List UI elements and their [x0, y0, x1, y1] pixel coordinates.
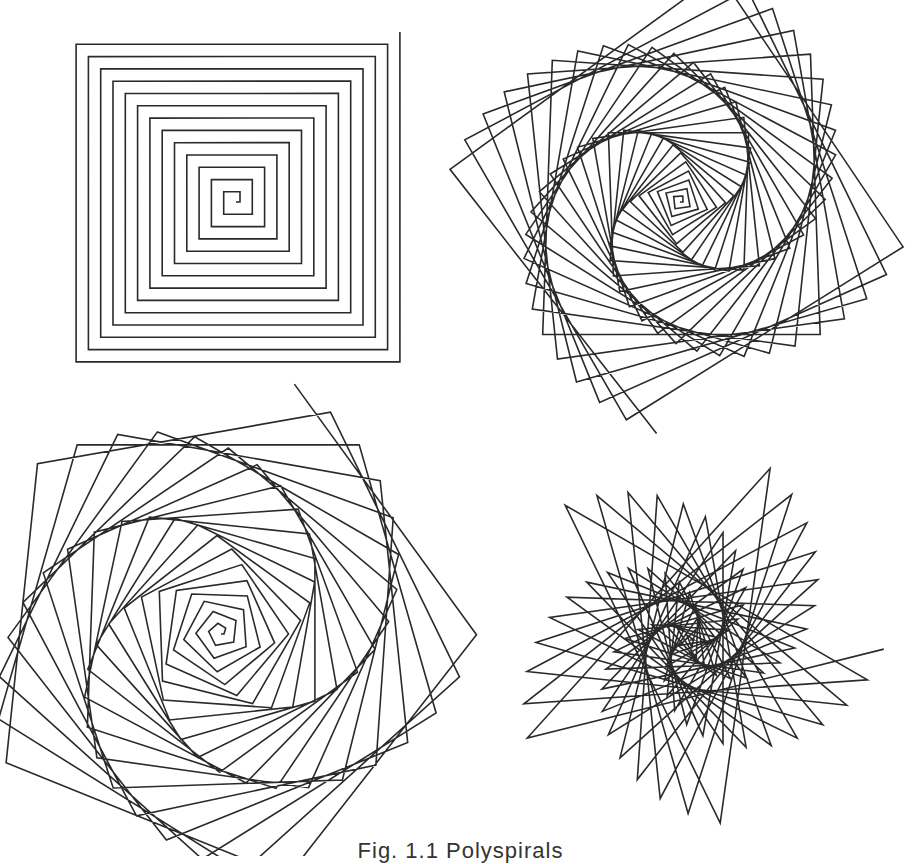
- star-spiral-drawing: [524, 468, 884, 823]
- pentagon-spiral-drawing: [0, 384, 476, 856]
- square-spiral-drawing: [76, 32, 400, 362]
- figure-caption: Fig. 1.1 Polyspirals: [0, 838, 921, 864]
- twisted-square-spiral-drawing: [450, 0, 903, 434]
